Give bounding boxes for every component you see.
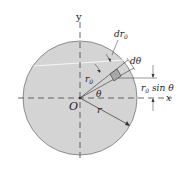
arrowhead-top [152, 74, 155, 78]
dtheta-label: dθ [130, 56, 142, 66]
origin-label: O [69, 100, 78, 113]
origin-dot [79, 97, 82, 100]
arrowhead-bottom [152, 98, 155, 102]
y-axis-label: y [75, 11, 82, 22]
polar-diagram: y x O r θ r0 dr0 dθ r0 sin θ [0, 0, 189, 172]
theta-label: θ [96, 89, 102, 99]
x-axis-label: x [166, 93, 171, 103]
dr0-label: dr0 [114, 29, 128, 40]
r0-sin-theta-label: r0 sin θ [141, 83, 174, 94]
